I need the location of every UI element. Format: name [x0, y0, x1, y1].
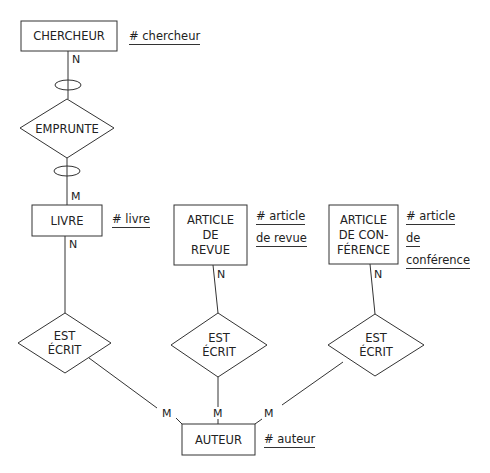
identifier-text: de [406, 231, 420, 247]
label-line: ÉCRIT [171, 345, 267, 359]
entity-label-article-revue: ARTICLE DE REVUE [174, 213, 247, 258]
cardinality-auteur-2: M [213, 407, 223, 420]
cardinality-auteur-3: M [264, 407, 274, 420]
relation-label-est-ecrit-1: EST ÉCRIT [18, 329, 111, 357]
entity-label-chercheur: CHERCHEUR [21, 29, 117, 43]
relation-label-est-ecrit-2: EST ÉCRIT [171, 331, 267, 359]
label-line: EST [18, 329, 111, 343]
identifier-text: # article [406, 209, 455, 225]
label-line: FÉRENCE [329, 243, 398, 258]
cardinality-revue-ecrit: N [217, 268, 225, 281]
identifier-text: # auteur [264, 432, 315, 448]
identifier-text: de revue [256, 231, 307, 247]
identifier-text: conférence [406, 253, 470, 269]
relation-label-emprunte: EMPRUNTE [20, 122, 114, 136]
label-line: ÉCRIT [328, 345, 424, 359]
entity-label-livre: LIVRE [32, 214, 102, 228]
identifier-article-revue: # article de revue [256, 209, 307, 253]
identifier-auteur: # auteur [264, 432, 315, 454]
label-line: DE [174, 228, 247, 243]
cardinality-chercheur-emprunte: N [72, 53, 80, 66]
identifier-text: # livre [112, 212, 150, 228]
cardinality-emprunte-livre: M [71, 190, 81, 203]
identifier-chercheur: # chercheur [129, 29, 200, 51]
entity-label-article-conference: ARTICLE DE CON- FÉRENCE [329, 213, 398, 258]
relation-label-est-ecrit-3: EST ÉCRIT [328, 331, 424, 359]
identifier-text: # article [256, 209, 305, 225]
identifier-livre: # livre [112, 212, 150, 234]
label-line: REVUE [174, 243, 247, 258]
label-line: EST [171, 331, 267, 345]
label-line: ÉCRIT [18, 343, 111, 357]
entity-label-auteur: AUTEUR [182, 433, 255, 447]
cardinality-conference-ecrit: N [374, 268, 382, 281]
identifier-article-conference: # article de conférence [406, 209, 470, 275]
identifier-text: # chercheur [129, 29, 200, 45]
cardinality-auteur-1: M [162, 407, 172, 420]
label-line: ARTICLE [329, 213, 398, 228]
label-line: ARTICLE [174, 213, 247, 228]
label-line: EST [328, 331, 424, 345]
cardinality-livre-ecrit: N [69, 238, 77, 251]
label-line: DE CON- [329, 228, 398, 243]
